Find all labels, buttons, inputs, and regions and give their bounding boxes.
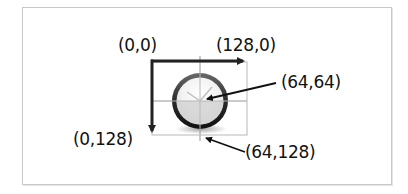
bottom-center-pointer-arrow [206, 138, 245, 152]
origin-label: (0,0) [118, 35, 157, 55]
center-label: (64,64) [281, 72, 341, 92]
clock-icon [152, 56, 247, 141]
top-right-label: (128,0) [216, 35, 276, 55]
coordinate-diagram [0, 0, 408, 194]
bottom-center-label: (64,128) [245, 142, 315, 162]
bottom-left-label: (0,128) [73, 129, 133, 149]
